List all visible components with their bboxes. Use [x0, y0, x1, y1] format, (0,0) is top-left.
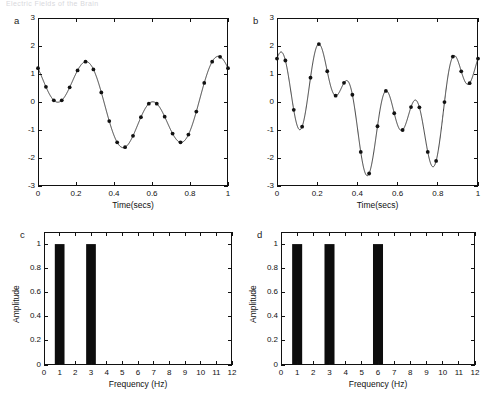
y-tick-mark [281, 316, 285, 317]
y-tick-mark-right [471, 316, 475, 317]
x-tick-mark-top [410, 232, 411, 236]
x-tick-mark [313, 361, 314, 365]
x-tick-mark-top [329, 232, 330, 236]
y-tick-label: 0.4 [258, 311, 278, 320]
y-tick-mark [281, 244, 285, 245]
x-tick-mark-top [378, 232, 379, 236]
x-tick-mark-top [426, 232, 427, 236]
x-tick-mark-top [281, 232, 282, 236]
x-tick-mark [297, 361, 298, 365]
y-tick-mark-right [471, 268, 475, 269]
y-tick-mark-right [471, 292, 475, 293]
frequency-bar [373, 244, 383, 365]
x-tick-mark [410, 361, 411, 365]
x-tick-label: 12 [464, 368, 486, 377]
x-tick-mark-top [475, 232, 476, 236]
panel-d-ylabel: Amplitude [248, 285, 258, 323]
panel-d: d Frequency (Hz) Amplitude 0123456789101… [0, 0, 496, 415]
x-tick-mark [329, 361, 330, 365]
x-tick-mark [442, 361, 443, 365]
figure-root: Electric Fields of the Brain a Time(secs… [0, 0, 496, 415]
bar-group [292, 244, 383, 365]
frequency-bar [324, 244, 334, 365]
y-tick-label: 0.2 [258, 335, 278, 344]
x-tick-mark [458, 361, 459, 365]
y-tick-label: 0.6 [258, 287, 278, 296]
y-tick-mark [281, 340, 285, 341]
x-tick-mark [394, 361, 395, 365]
y-tick-label: 0 [258, 360, 278, 369]
x-tick-mark-top [458, 232, 459, 236]
x-tick-mark [426, 361, 427, 365]
y-tick-mark [281, 292, 285, 293]
x-tick-mark-top [313, 232, 314, 236]
y-tick-mark [281, 268, 285, 269]
y-tick-mark-right [471, 365, 475, 366]
y-tick-label: 0.8 [258, 263, 278, 272]
x-tick-mark-top [361, 232, 362, 236]
panel-d-xlabel: Frequency (Hz) [281, 379, 475, 389]
x-tick-mark-top [345, 232, 346, 236]
x-tick-mark [361, 361, 362, 365]
y-tick-mark [281, 365, 285, 366]
frequency-bar [292, 244, 302, 365]
y-tick-mark-right [471, 244, 475, 245]
x-tick-mark-top [297, 232, 298, 236]
y-tick-mark-right [471, 340, 475, 341]
x-tick-mark [378, 361, 379, 365]
x-tick-mark [345, 361, 346, 365]
x-tick-mark-top [442, 232, 443, 236]
panel-d-svg [0, 0, 496, 415]
x-tick-mark-top [394, 232, 395, 236]
y-tick-label: 1 [258, 239, 278, 248]
